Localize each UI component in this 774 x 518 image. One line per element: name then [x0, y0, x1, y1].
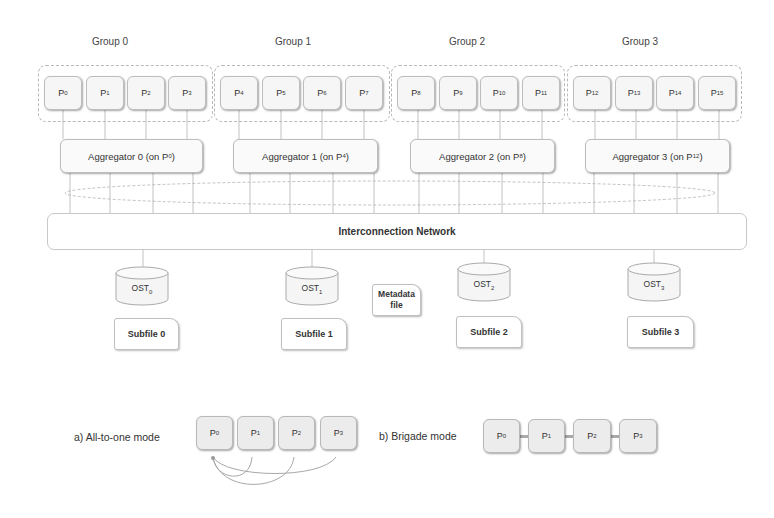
- mode-b-process-box: P3: [619, 419, 657, 453]
- process-box: P13: [615, 76, 653, 110]
- subfile-3: Subfile 3: [627, 316, 694, 348]
- aggregator-box-0: Aggregator 0 (on P0): [60, 139, 203, 173]
- process-box: P4: [220, 76, 258, 110]
- subfile-1: Subfile 1: [281, 318, 347, 350]
- aggregator-ring: [65, 181, 715, 205]
- process-box: P5: [262, 76, 300, 110]
- process-box: P15: [698, 76, 736, 110]
- process-box: P11: [522, 76, 560, 110]
- group-label: Group 1: [253, 36, 333, 47]
- ost-label: OST2: [454, 279, 514, 291]
- ost-label: OST3: [624, 279, 684, 291]
- mode-b-process-box: P2: [573, 419, 611, 453]
- brigade-mode-label: b) Brigade mode: [379, 430, 457, 442]
- mode-a-process-box: P2: [278, 416, 315, 450]
- process-box: P14: [656, 76, 694, 110]
- interconnection-network: Interconnection Network: [47, 213, 747, 250]
- process-box: P2: [127, 76, 165, 110]
- aggregator-box-1: Aggregator 1 (on P4): [233, 139, 378, 173]
- mode-a-process-box: P3: [320, 416, 357, 450]
- group-label: Group 2: [427, 36, 507, 47]
- process-box: P7: [345, 76, 383, 110]
- group-label: Group 3: [600, 36, 680, 47]
- aggregator-box-3: Aggregator 3 (on P12): [585, 139, 730, 173]
- all-to-one-mode-label: a) All-to-one mode: [74, 431, 160, 443]
- process-box: P9: [439, 76, 477, 110]
- process-box: P1: [86, 76, 124, 110]
- process-box: P3: [168, 76, 206, 110]
- ost-label: OST1: [282, 283, 342, 295]
- mode-a-process-box: P1: [237, 416, 274, 450]
- mode-b-process-box: P0: [483, 419, 520, 453]
- mode-a-process-box: P0: [196, 416, 233, 450]
- process-box: P0: [44, 76, 82, 110]
- ost-label: OST0: [112, 283, 172, 295]
- subfile-2: Subfile 2: [456, 316, 522, 348]
- process-box: P12: [573, 76, 611, 110]
- process-box: P10: [480, 76, 518, 110]
- aggregator-box-2: Aggregator 2 (on P8): [410, 139, 555, 173]
- mode-b-process-box: P1: [528, 419, 565, 453]
- subfile-0: Subfile 0: [114, 318, 179, 350]
- metadata-file: Metadata file: [372, 284, 421, 316]
- process-box: P6: [303, 76, 341, 110]
- group-label: Group 0: [70, 36, 150, 47]
- process-box: P8: [397, 76, 435, 110]
